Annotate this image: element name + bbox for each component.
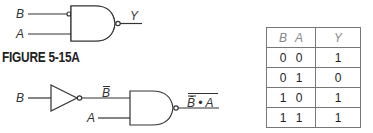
cell-y: 0 [316,68,361,88]
truth-table-header: B A Y [267,28,361,48]
cell-a: 0 [296,51,303,65]
logic-diagram: B A Y B B̄ A B̄ • A [0,0,250,133]
top-output-y-label: Y [130,9,139,23]
bottom-output-label: B̄ • A [187,96,213,110]
table-row: 00 1 [267,48,361,68]
inverter-output-label: B̄ [102,86,110,100]
cell-a: 1 [296,71,303,85]
cell-b: 1 [280,91,287,105]
top-nand-gate [28,6,142,41]
header-y: Y [316,28,361,48]
cell-y: 1 [316,48,361,68]
header-a: A [295,31,303,45]
top-input-b-label: B [16,7,24,21]
figure-label: FIGURE 5-15A [2,49,80,65]
bottom-input-a-label: A [86,111,95,125]
cell-y: 1 [316,108,361,128]
table-row: 01 0 [267,68,361,88]
cell-b: 1 [280,111,287,125]
bottom-input-b-label: B [16,91,24,105]
header-b: B [279,31,287,45]
cell-b: 0 [280,71,287,85]
table-row: 11 1 [267,108,361,128]
inverter-gate [51,85,77,111]
cell-b: 0 [280,51,287,65]
header-inputs: B A [267,28,316,48]
table-row: 10 1 [267,88,361,108]
bottom-nand-gate [130,91,173,125]
truth-table: B A Y 00 1 01 0 10 1 11 1 [266,27,361,128]
top-input-a-label: A [15,27,24,41]
cell-a: 1 [296,111,303,125]
cell-a: 0 [296,91,303,105]
cell-y: 1 [316,88,361,108]
